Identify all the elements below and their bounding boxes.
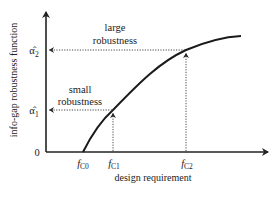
annotation-small-line2: robustness [58, 96, 102, 107]
y-axis-label: info-gap robustness function [8, 23, 19, 137]
annotation-large-line2: robustness [93, 35, 137, 46]
y-tick-alpha1: α̂1 [29, 105, 39, 119]
robustness-curve [83, 36, 241, 152]
x-tick-fc1: fC1 [108, 158, 120, 171]
x-axis-label: design requirement [115, 172, 192, 183]
origin-label: 0 [34, 147, 39, 158]
x-tick-fc0: fC0 [77, 158, 89, 171]
annotation-small-line1: small [69, 84, 92, 95]
annotation-large-line1: large [105, 22, 126, 33]
y-tick-alpha2: α̂2 [29, 45, 39, 59]
x-tick-fc2: fC2 [181, 158, 193, 171]
robustness-diagram: info-gap robustness function α̂2 α̂1 0 f… [0, 0, 280, 197]
